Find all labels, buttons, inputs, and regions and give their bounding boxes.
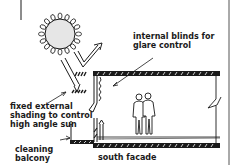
- cleaning-balcony-label-line-1: cleaning: [15, 145, 53, 154]
- sun-icon: [39, 13, 82, 55]
- external-shading-label-line-2: shading to control: [10, 111, 93, 120]
- break-line: [208, 71, 221, 143]
- internal-blinds-label-line-1: internal blinds for: [133, 32, 214, 41]
- external-shading-label: fixed external shading to control high a…: [10, 102, 93, 129]
- internal-blinds: [99, 77, 101, 101]
- external-shading-label-line-1: fixed external: [10, 102, 93, 111]
- internal-blinds-label: internal blinds for glare control: [133, 32, 214, 50]
- incident-sun-ray-arrow: [61, 58, 80, 92]
- internal-blinds-label-line-2: glare control: [133, 41, 214, 50]
- cleaning-balcony-label-line-2: balcony: [15, 154, 53, 163]
- diagram-drawing: [0, 0, 237, 165]
- floor-slab: [93, 137, 220, 148]
- occupants-figures: [133, 93, 155, 134]
- sun-shading-section-diagram: internal blinds for glare control fixed …: [0, 0, 237, 165]
- cleaning-balcony-label: cleaning balcony: [15, 145, 53, 163]
- external-shading-label-line-3: high angle sun: [10, 120, 93, 129]
- facade-label: south facade: [98, 153, 156, 162]
- ceiling-slab: [93, 71, 220, 76]
- reflected-sun-ray-arrow: [74, 43, 102, 67]
